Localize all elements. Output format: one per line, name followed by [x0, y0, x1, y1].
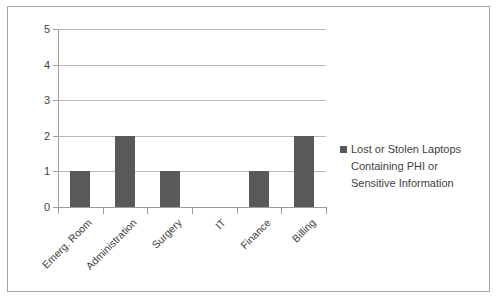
- gridline: [58, 65, 326, 66]
- plot-area: [58, 29, 326, 207]
- bar: [294, 136, 314, 207]
- x-axis-tick: [237, 208, 238, 214]
- legend-label: Lost or Stolen Laptops Containing PHI or…: [351, 141, 490, 192]
- gridline: [58, 136, 326, 137]
- y-axis-tick-label: 4: [20, 59, 50, 70]
- bar: [70, 171, 90, 207]
- bar: [160, 171, 180, 207]
- y-axis-tick: [53, 207, 58, 208]
- y-axis-tick: [53, 171, 58, 172]
- y-axis-tick: [53, 136, 58, 137]
- chart-frame: 012345 Emerg. RoomAdministrationSurgeryI…: [7, 6, 490, 292]
- gridline: [58, 29, 326, 30]
- x-axis-tick: [58, 208, 59, 214]
- x-axis-tick: [147, 208, 148, 214]
- legend-line: Sensitive Information: [351, 175, 490, 192]
- y-axis-tick: [53, 65, 58, 66]
- y-axis-tick: [53, 29, 58, 30]
- x-axis-tick: [103, 208, 104, 214]
- y-axis-tick-label: 0: [20, 202, 50, 213]
- x-axis-tick: [192, 208, 193, 214]
- x-axis-tick: [326, 208, 327, 214]
- gridline: [58, 171, 326, 172]
- y-axis-tick-label: 2: [20, 130, 50, 141]
- legend-swatch-icon: [340, 146, 347, 153]
- y-axis-tick-label: 3: [20, 95, 50, 106]
- legend-line: Containing PHI or: [351, 158, 490, 175]
- legend-line: Lost or Stolen Laptops: [351, 141, 490, 158]
- y-axis-tick-label: 5: [20, 24, 50, 35]
- bar: [249, 171, 269, 207]
- bar: [115, 136, 135, 207]
- y-axis-tick-label: 1: [20, 166, 50, 177]
- gridline: [58, 100, 326, 101]
- x-axis-tick: [281, 208, 282, 214]
- chart-legend: Lost or Stolen Laptops Containing PHI or…: [340, 141, 490, 192]
- y-axis-tick: [53, 100, 58, 101]
